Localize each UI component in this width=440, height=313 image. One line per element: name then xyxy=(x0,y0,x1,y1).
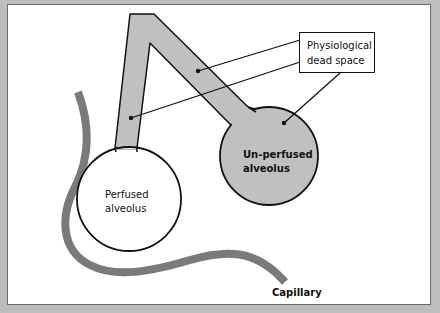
unperfused-label-line-1: Un-perfused xyxy=(243,148,313,162)
perfused-alveolus-label: Perfused alveolus xyxy=(105,188,149,216)
callout-line-1: Physiological xyxy=(307,38,374,53)
unperfused-label-line-2: alveolus xyxy=(243,162,313,176)
leader-line-unperfused xyxy=(284,73,340,123)
unperfused-alveolus-label: Un-perfused alveolus xyxy=(243,148,313,176)
leader-line-right-branch xyxy=(198,40,300,71)
callout-physiological-dead-space: Physiological dead space xyxy=(299,32,375,73)
capillary-label: Capillary xyxy=(272,286,322,300)
callout-line-2: dead space xyxy=(307,53,374,68)
perfused-label-line-2: alveolus xyxy=(105,202,149,216)
diagram-frame: Physiological dead space Perfused alveol… xyxy=(0,0,440,313)
perfused-label-line-1: Perfused xyxy=(105,188,149,202)
